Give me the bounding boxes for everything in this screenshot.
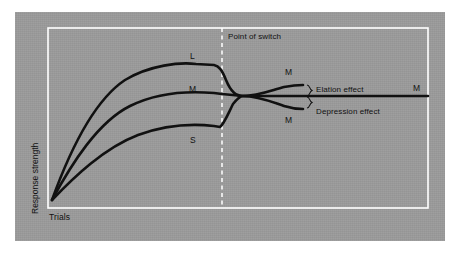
figure-container: L M S M M M Point of switch Elation effe… xyxy=(0,0,460,253)
curve-label-small: S xyxy=(190,136,196,145)
curve-large-reward xyxy=(52,63,303,200)
point-of-switch-label: Point of switch xyxy=(228,33,281,41)
elation-brace xyxy=(307,85,312,96)
x-axis-label: Trials xyxy=(49,213,70,222)
plot-frame xyxy=(48,28,428,208)
curve-label-elation: M xyxy=(285,68,292,77)
curve-label-medium: M xyxy=(189,85,196,94)
elation-effect-label: Elation effect xyxy=(316,86,364,94)
depression-brace xyxy=(307,97,312,108)
curve-label-depression: M xyxy=(285,116,292,125)
curve-label-control-right: M xyxy=(413,84,420,93)
curve-label-large: L xyxy=(190,52,195,61)
y-axis-label: Response strength xyxy=(30,143,40,214)
depression-effect-label: Depression effect xyxy=(316,108,380,116)
